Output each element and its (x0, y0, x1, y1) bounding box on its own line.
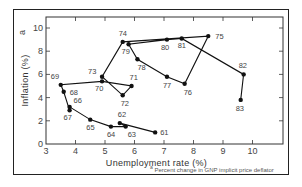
data-label-69: 69 (51, 72, 59, 81)
footnote-marker: a (150, 164, 153, 170)
data-point-64 (109, 124, 113, 128)
data-point-67 (67, 108, 71, 112)
data-point-76 (182, 81, 186, 85)
data-point-71 (129, 84, 133, 88)
data-label-79: 79 (122, 47, 130, 56)
data-point-62 (118, 121, 122, 125)
data-point-78 (135, 57, 139, 61)
x-tick-label: 6 (132, 146, 137, 156)
data-label-76: 76 (184, 88, 192, 97)
data-point-69 (59, 83, 63, 87)
data-point-77 (165, 75, 169, 79)
data-label-67: 67 (64, 113, 72, 122)
y-tick-label: 4 (38, 93, 43, 103)
data-label-78: 78 (137, 63, 145, 72)
data-label-81: 81 (178, 41, 186, 50)
data-label-61: 61 (160, 128, 168, 137)
data-label-65: 65 (86, 123, 94, 132)
data-point-74 (121, 40, 125, 44)
x-tick-label: 10 (247, 146, 257, 156)
data-label-70: 70 (95, 84, 103, 93)
data-label-63: 63 (128, 130, 136, 139)
data-point-72 (121, 93, 125, 97)
y-tick-label: 0 (38, 139, 43, 149)
y-axis-title-superscript: a (17, 30, 27, 35)
data-point-82 (241, 72, 245, 76)
chart-svg: 3456789100246810Unemployment rate (%)Inf… (0, 0, 302, 187)
data-label-80: 80 (161, 43, 169, 52)
x-tick-label: 5 (102, 146, 107, 156)
x-tick-label: 4 (73, 146, 78, 156)
data-label-73: 73 (88, 67, 96, 76)
data-label-72: 72 (121, 99, 129, 108)
data-point-68 (62, 90, 66, 94)
data-point-81 (180, 36, 184, 40)
data-label-75: 75 (215, 32, 223, 41)
y-tick-label: 2 (38, 116, 43, 126)
data-point-80 (165, 37, 169, 41)
data-point-70 (100, 79, 104, 83)
data-label-66: 66 (74, 96, 82, 105)
data-point-63 (123, 124, 127, 128)
y-tick-label: 6 (38, 69, 43, 79)
y-tick-label: 8 (38, 46, 43, 56)
data-label-62: 62 (118, 110, 126, 119)
data-label-77: 77 (163, 81, 171, 90)
y-axis-title: Inflation (%) (20, 55, 30, 107)
data-point-83 (239, 98, 243, 102)
x-tick-label: 8 (191, 146, 196, 156)
data-label-83: 83 (236, 104, 244, 113)
data-point-79 (126, 42, 130, 46)
x-tick-label: 7 (161, 146, 166, 156)
data-label-64: 64 (107, 130, 115, 139)
data-point-65 (88, 117, 92, 121)
data-label-74: 74 (119, 29, 127, 38)
data-label-71: 71 (130, 73, 138, 82)
series-line (61, 36, 244, 132)
x-tick-label: 9 (220, 146, 225, 156)
footnote: a Percent change in GNP implicit price d… (150, 164, 274, 173)
data-point-73 (100, 75, 104, 79)
data-point-61 (153, 130, 157, 134)
x-tick-label: 3 (43, 146, 48, 156)
data-label-82: 82 (239, 61, 247, 70)
data-point-75 (206, 34, 210, 38)
footnote-text: Percent change in GNP implicit price def… (154, 167, 273, 173)
data-label-68: 68 (70, 88, 78, 97)
y-tick-label: 10 (33, 23, 43, 33)
